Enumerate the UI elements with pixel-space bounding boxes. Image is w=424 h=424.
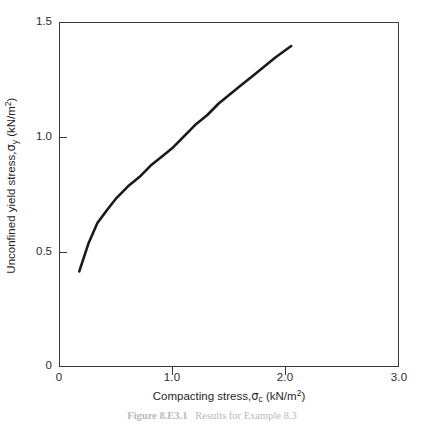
y-axis-units-open: (kN/m xyxy=(5,106,17,137)
y-axis-title-wrap: Unconfined yield stress,σy (kN/m2) xyxy=(0,0,24,367)
y-tick-3 xyxy=(59,252,67,253)
figure-root: 1.5 1.0 0.5 0 0 1.0 2.0 3.0 Compacting s… xyxy=(0,0,424,424)
y-axis-sigma-subscript: y xyxy=(10,140,20,144)
x-ticklabel-0: 0 xyxy=(36,371,82,383)
x-axis-sigma-symbol: σ xyxy=(251,389,258,403)
yield-stress-curve xyxy=(60,23,400,368)
y-axis-units-exponent: 2 xyxy=(3,101,13,106)
y-axis-title: Unconfined yield stress,σy (kN/m2) xyxy=(2,21,21,351)
x-axis-title: Compacting stress,σc (kN/m2) xyxy=(59,387,399,406)
figure-caption-text: Results for Example 8.3 xyxy=(195,410,296,421)
x-ticklabel-2.0: 2.0 xyxy=(262,371,308,383)
x-axis-title-prefix: Compacting stress, xyxy=(153,390,251,402)
x-axis-units-open: (kN/m xyxy=(266,390,297,402)
figure-caption-number: 8.E3.1 xyxy=(159,410,187,421)
x-ticklabel-1.0: 1.0 xyxy=(149,371,195,383)
y-axis-title-prefix: Unconfined yield stress, xyxy=(5,152,17,274)
y-axis-sigma-symbol: σ xyxy=(4,144,18,151)
curve-polyline xyxy=(79,46,291,271)
x-ticklabel-3.0: 3.0 xyxy=(376,371,422,383)
y-tick-1 xyxy=(59,22,67,23)
x-axis-sigma-subscript: c xyxy=(259,394,263,404)
figure-caption: Figure 8.E3.1 Results for Example 8.3 xyxy=(0,409,424,422)
y-tick-2 xyxy=(59,137,67,138)
figure-caption-prefix: Figure xyxy=(127,410,157,421)
y-axis-units-close: ) xyxy=(5,98,17,102)
x-axis-units-close: ) xyxy=(301,390,305,402)
plot-area xyxy=(59,22,399,367)
